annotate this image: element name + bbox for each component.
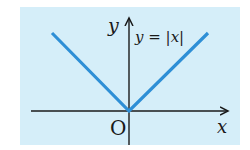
x-axis-label: x bbox=[217, 116, 227, 137]
y-axis-label: y bbox=[107, 14, 119, 36]
origin-label: O bbox=[110, 116, 126, 140]
absolute-value-graph: y y = |x| O x bbox=[0, 0, 250, 150]
graph-canvas: y y = |x| O x bbox=[0, 0, 250, 150]
graph-background bbox=[20, 7, 240, 145]
function-label: y = |x| bbox=[134, 28, 184, 46]
